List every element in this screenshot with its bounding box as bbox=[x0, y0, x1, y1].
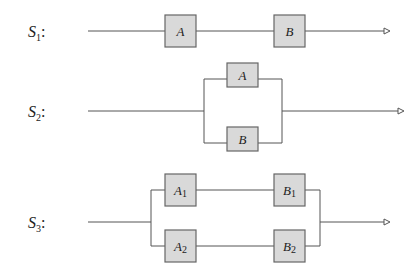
system-s3: S3: A1 B1 A2 B2 bbox=[28, 174, 390, 262]
system-s2-label: S2: bbox=[28, 103, 45, 123]
s3-component-a1: A1 bbox=[165, 174, 196, 206]
system-s1: S1: A B bbox=[28, 15, 390, 47]
system-s2: S2: A B bbox=[28, 63, 404, 151]
s3-split-wire bbox=[151, 190, 165, 246]
s1-component-a: A bbox=[165, 15, 196, 47]
s2-split-wire bbox=[204, 79, 227, 143]
reliability-diagram: S1: A B S2: A B S3: bbox=[0, 0, 414, 275]
system-s1-label: S1: bbox=[28, 23, 45, 43]
s1-component-b: B bbox=[274, 15, 305, 47]
s3-output-arrow-icon bbox=[384, 219, 390, 225]
s1-output-arrow-icon bbox=[384, 28, 390, 34]
component-label: A bbox=[238, 68, 247, 83]
s3-component-b1: B1 bbox=[274, 174, 305, 206]
s3-join-wire bbox=[305, 190, 320, 246]
s2-component-b: B bbox=[227, 127, 258, 151]
s2-output-arrow-icon bbox=[398, 108, 404, 114]
component-label: B bbox=[286, 24, 294, 39]
s3-component-a2: A2 bbox=[165, 230, 196, 262]
system-s3-label: S3: bbox=[28, 214, 45, 234]
s3-component-b2: B2 bbox=[274, 230, 305, 262]
s2-join-wire bbox=[258, 79, 282, 143]
component-label: A bbox=[176, 24, 185, 39]
component-label: B bbox=[239, 132, 247, 147]
s2-component-a: A bbox=[227, 63, 258, 87]
